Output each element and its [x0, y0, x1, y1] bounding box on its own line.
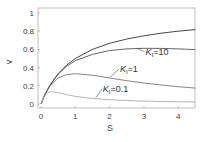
x-tick-label: 0	[39, 112, 44, 121]
y-tick-label: 0	[30, 100, 35, 109]
substrate-inhibition-chart: 01234 00.20.40.60.81 KI=10KI=1KI=0.1 S v	[0, 0, 206, 142]
y-tick-label: 0.4	[23, 64, 35, 73]
y-tick-label: 0.2	[23, 82, 35, 91]
label-leader-line	[110, 69, 119, 77]
curve-ki-10	[41, 48, 195, 104]
curve-label: KI=10	[146, 47, 169, 58]
y-axis-label: v	[4, 59, 14, 64]
x-tick-label: 2	[107, 112, 112, 121]
y-tick-label: 1	[30, 9, 35, 18]
curve-label: KI=0.1	[103, 84, 128, 95]
y-tick-label: 0.8	[23, 27, 35, 36]
x-tick-label: 1	[73, 112, 78, 121]
label-leader-line	[96, 89, 102, 97]
x-axis-label: S	[107, 123, 113, 133]
x-tick-label: 4	[176, 112, 181, 121]
y-tick-label: 0.6	[23, 45, 35, 54]
curve-labels: KI=10KI=1KI=0.1	[96, 47, 169, 98]
x-tick-label: 3	[142, 112, 147, 121]
curve-label: KI=1	[120, 64, 138, 75]
y-axis-ticks: 00.20.40.60.81	[23, 9, 40, 109]
